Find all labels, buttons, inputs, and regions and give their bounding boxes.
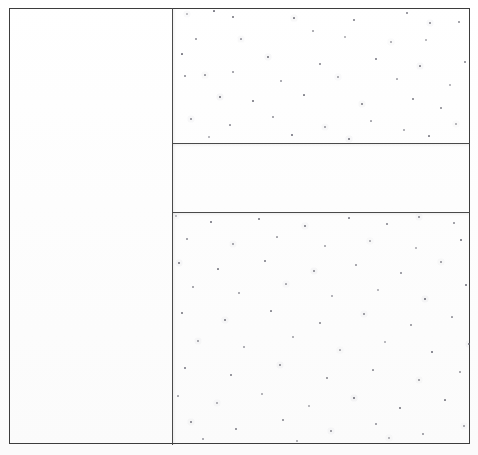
- scan-speck: [195, 38, 197, 40]
- scan-speck: [424, 298, 426, 300]
- scan-speck: [261, 393, 262, 394]
- right-bottom-cell: [173, 213, 470, 444]
- scan-speck: [353, 19, 355, 21]
- scan-speck: [270, 310, 272, 312]
- scan-speck: [308, 405, 310, 407]
- scan-speck: [422, 433, 423, 434]
- scan-speck: [230, 374, 231, 375]
- scan-speck: [375, 423, 377, 425]
- scan-speck: [264, 260, 265, 261]
- scan-speck: [293, 17, 295, 19]
- scan-speck: [232, 16, 233, 17]
- scan-speck: [361, 103, 363, 105]
- scan-speck: [190, 118, 191, 119]
- scan-speck: [463, 425, 465, 427]
- scan-speck: [412, 98, 413, 99]
- scan-speck: [428, 135, 430, 137]
- scan-speck: [337, 76, 338, 77]
- scan-speck: [406, 12, 408, 14]
- scan-speck: [464, 61, 465, 62]
- scan-speck: [232, 243, 233, 244]
- scan-speck: [190, 421, 192, 423]
- scan-speck: [460, 239, 461, 240]
- scan-speck: [451, 316, 453, 318]
- scan-speck: [252, 100, 253, 101]
- right-middle-cell: [173, 144, 470, 212]
- scan-speck: [419, 65, 421, 67]
- scan-speck: [468, 343, 470, 345]
- scan-speck: [390, 41, 391, 42]
- scan-speck: [324, 126, 325, 127]
- scan-speck: [258, 218, 259, 219]
- scan-speck: [181, 53, 183, 55]
- scan-speck: [292, 336, 293, 337]
- scan-speck: [431, 351, 432, 352]
- scan-speck: [388, 437, 389, 438]
- scan-speck: [240, 38, 242, 40]
- scan-speck: [210, 221, 212, 223]
- scan-speck: [184, 367, 186, 369]
- scan-speck: [465, 284, 466, 285]
- scan-speck: [291, 134, 293, 136]
- scan-speck: [425, 39, 427, 41]
- scan-speck: [181, 312, 183, 314]
- scan-speck: [192, 286, 193, 287]
- scan-speck: [202, 438, 203, 439]
- scan-speck: [384, 341, 386, 343]
- scanned-document-page: [0, 0, 478, 455]
- scan-speck: [216, 402, 218, 404]
- scan-speck: [372, 369, 374, 371]
- scan-speck: [459, 371, 460, 372]
- scan-speck: [331, 295, 332, 296]
- scan-speck: [330, 430, 331, 431]
- scan-speck: [204, 74, 206, 76]
- scan-speck: [377, 289, 379, 291]
- scan-speck: [186, 238, 188, 240]
- scan-speck: [399, 407, 401, 409]
- scan-speck: [243, 346, 245, 348]
- left-column-cell-label: [10, 9, 11, 10]
- scan-speck: [282, 419, 284, 421]
- scan-speck: [177, 395, 179, 397]
- scan-speck: [400, 272, 401, 273]
- scan-speck: [403, 129, 405, 131]
- left-column-cell: [10, 9, 172, 444]
- scan-speck: [386, 223, 388, 225]
- scan-speck: [444, 399, 446, 401]
- scan-speck: [296, 440, 298, 442]
- scan-speck: [312, 30, 313, 31]
- scan-speck: [184, 75, 186, 77]
- scan-speck: [344, 36, 346, 38]
- scan-speck: [213, 10, 215, 12]
- scan-speck: [276, 236, 278, 238]
- scan-speck: [235, 428, 236, 429]
- scan-speck: [186, 13, 188, 15]
- scan-speck: [440, 107, 442, 109]
- scan-speck: [224, 319, 225, 320]
- scan-speck: [280, 80, 282, 82]
- scan-speck: [348, 138, 349, 139]
- scan-speck: [324, 245, 326, 247]
- scan-speck: [303, 94, 305, 96]
- scan-speck: [375, 58, 376, 59]
- scan-speck: [285, 283, 287, 285]
- scan-speck: [208, 136, 209, 137]
- right-middle-cell-label: [173, 144, 174, 145]
- scan-speck: [197, 340, 198, 341]
- scan-speck: [232, 71, 233, 72]
- scan-speck: [429, 22, 430, 23]
- right-top-cell: [173, 9, 470, 143]
- scan-speck: [238, 292, 240, 294]
- scan-speck: [353, 397, 354, 398]
- scan-speck: [319, 322, 321, 324]
- scan-speck: [396, 78, 398, 80]
- scan-speck: [449, 84, 451, 86]
- scan-speck: [453, 222, 455, 224]
- scan-speck: [370, 120, 372, 122]
- scan-speck: [455, 123, 457, 125]
- scan-speck: [410, 324, 412, 326]
- scan-speck: [440, 261, 442, 263]
- scan-speck: [219, 96, 221, 98]
- scan-speck: [279, 364, 281, 366]
- scan-speck: [178, 262, 180, 264]
